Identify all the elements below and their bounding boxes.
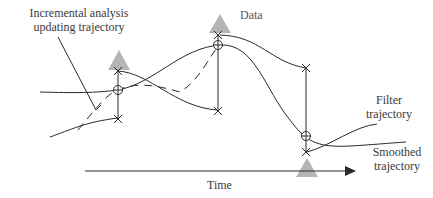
filter-label-line2: trajectory: [354, 107, 424, 121]
incremental-pointer-line: [58, 37, 101, 110]
data-label: Data: [240, 8, 263, 22]
smoothed-trajectory-curve: [40, 45, 406, 146]
incremental-label: Incremental analysis updating trajectory: [5, 6, 153, 34]
data-marker-2: [209, 14, 231, 33]
filter-trajectory-segment-3: [220, 35, 306, 68]
filter-label: Filter trajectory: [354, 93, 424, 121]
smoothed-label-line1: Smoothed: [362, 145, 432, 159]
incremental-trajectory-dashed: [78, 47, 218, 130]
smoothed-label-line2: trajectory: [362, 159, 432, 173]
time-axis-arrowhead: [345, 166, 356, 176]
data-marker-3: [296, 158, 318, 177]
data-marker-1: [108, 50, 130, 70]
smoothed-label: Smoothed trajectory: [362, 145, 432, 173]
time-label: Time: [207, 178, 232, 192]
filter-trajectory-segment-2: [118, 71, 217, 110]
x-markers: [114, 31, 310, 156]
incremental-label-line2: updating trajectory: [5, 20, 153, 34]
filter-trajectory-segment-1: [50, 118, 118, 137]
incremental-label-line1: Incremental analysis: [5, 6, 153, 20]
filter-label-line1: Filter: [354, 93, 424, 107]
